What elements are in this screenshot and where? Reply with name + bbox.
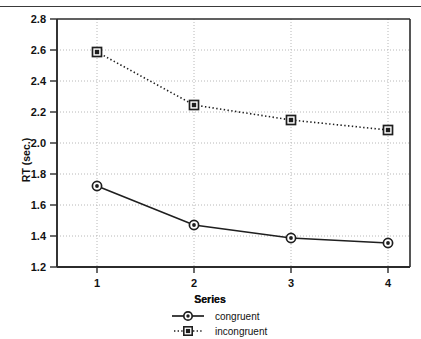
circle-marker-center [386, 241, 390, 245]
chart-legend: Series congruent incongruent [172, 293, 267, 337]
ytick-label-1.6: 1.6 [31, 199, 46, 211]
ytick-label-2.2: 2.2 [31, 106, 46, 118]
ytick-label-1.8: 1.8 [31, 168, 46, 180]
ytick-label-2.8: 2.8 [31, 13, 46, 25]
legend-label-incongruent: incongruent [215, 326, 267, 337]
circle-marker-center [289, 236, 293, 240]
ytick-label-2.4: 2.4 [31, 75, 47, 87]
ytick-label-1.4: 1.4 [31, 230, 47, 242]
square-marker-center [95, 50, 99, 54]
xtick-label-2: 2 [191, 277, 197, 289]
ytick-label-1.2: 1.2 [31, 261, 46, 273]
legend-title: Series [194, 293, 226, 305]
y-axis-title: RT (sec.) [20, 138, 32, 182]
y-axis-ticks [50, 19, 57, 267]
line-chart-canvas: 1.2 1.4 1.6 1.8 2.0 2.2 2.4 2.6 2.8 1 2 … [0, 0, 421, 339]
y-axis-tick-labels: 1.2 1.4 1.6 1.8 2.0 2.2 2.4 2.6 2.8 [31, 13, 47, 273]
ytick-label-2.6: 2.6 [31, 44, 46, 56]
xtick-label-3: 3 [288, 277, 294, 289]
ytick-label-2.0: 2.0 [31, 137, 46, 149]
circle-marker-center [192, 223, 196, 227]
circle-marker-center [95, 184, 99, 188]
circle-marker-center [186, 314, 189, 317]
square-marker-center [186, 329, 190, 333]
legend-entry-incongruent[interactable]: incongruent [174, 326, 267, 337]
square-marker-center [192, 103, 196, 107]
legend-entry-congruent[interactable]: congruent [172, 311, 260, 322]
chart-figure: 1.2 1.4 1.6 1.8 2.0 2.2 2.4 2.6 2.8 1 2 … [0, 0, 421, 339]
square-marker-center [386, 128, 390, 132]
square-marker-center [289, 118, 293, 122]
xtick-label-1: 1 [94, 277, 100, 289]
xtick-label-4: 4 [385, 277, 392, 289]
legend-label-congruent: congruent [215, 311, 260, 322]
x-axis-tick-labels: 1 2 3 4 [94, 277, 392, 289]
